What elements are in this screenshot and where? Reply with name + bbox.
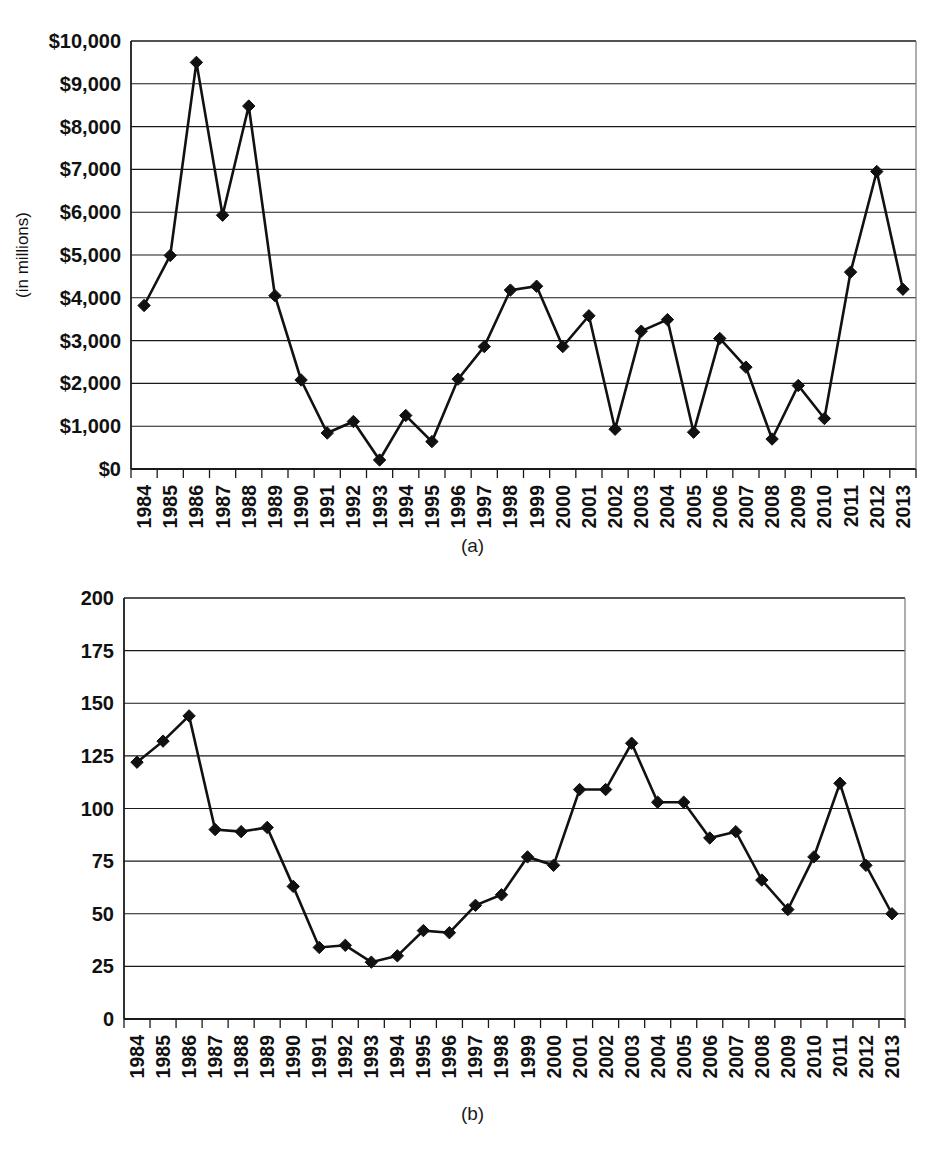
data-point-marker (235, 825, 247, 837)
y-axis-tick-label: $6,000 (60, 201, 121, 223)
x-axis-tick-label: 1987 (212, 485, 234, 528)
y-axis-tick-label: $1,000 (60, 415, 121, 437)
x-axis-tick-label: 1999 (517, 1035, 539, 1079)
x-axis-tick-label: 2000 (543, 1035, 565, 1079)
x-axis-tick-label: 2004 (656, 485, 678, 529)
x-axis-tick-label: 2013 (881, 1035, 903, 1079)
y-axis-tick-label: 150 (81, 692, 114, 714)
x-axis-tick-label: 2005 (683, 485, 705, 529)
data-point-marker (871, 165, 883, 177)
data-point-marker (243, 100, 255, 112)
data-point-marker (834, 777, 846, 789)
data-point-marker (609, 423, 621, 435)
chart-a-container: $0$1,000$2,000$3,000$4,000$5,000$6,000$7… (0, 0, 945, 570)
data-point-marker (573, 783, 585, 795)
x-axis-tick-label: 1984 (133, 485, 155, 529)
data-point-marker (190, 56, 202, 68)
x-axis-tick-label: 2008 (761, 485, 783, 529)
data-point-marker (766, 433, 778, 445)
x-axis-tick-label: 2007 (725, 1035, 747, 1078)
data-point-marker (844, 266, 856, 278)
data-point-marker (295, 374, 307, 386)
x-axis-tick-label: 2013 (892, 485, 914, 529)
x-axis-tick-label: 2009 (787, 485, 809, 529)
data-point-marker (209, 823, 221, 835)
x-axis-tick-label: 2006 (709, 485, 731, 529)
data-point-marker (261, 821, 273, 833)
x-axis-tick-label: 2012 (855, 1035, 877, 1079)
x-axis-tick-label: 1999 (526, 485, 548, 529)
x-axis-tick-label: 2001 (578, 485, 600, 529)
x-axis-tick-label: 2007 (735, 485, 757, 528)
y-axis-tick-label: 125 (81, 745, 114, 767)
data-series-line (144, 62, 903, 460)
y-axis-tick-label: 100 (81, 798, 114, 820)
x-axis-tick-label: 2011 (840, 485, 862, 527)
x-axis-tick-label: 1985 (159, 485, 181, 529)
data-point-marker (164, 249, 176, 261)
x-axis-tick-label: 2005 (673, 1035, 695, 1079)
y-axis-tick-label: $5,000 (60, 244, 121, 266)
y-axis-tick-label: $8,000 (60, 116, 121, 138)
x-axis-tick-label: 1989 (256, 1035, 278, 1079)
figure-page: $0$1,000$2,000$3,000$4,000$5,000$6,000$7… (0, 0, 945, 1152)
data-point-marker (625, 737, 637, 749)
y-axis-tick-label: $10,000 (49, 30, 121, 52)
data-point-marker (313, 941, 325, 953)
x-axis-tick-label: 1984 (126, 1035, 148, 1079)
y-axis-tick-label: 0 (103, 1008, 114, 1030)
data-series-line (137, 716, 892, 962)
x-axis-tick-label: 2011 (829, 1035, 851, 1077)
x-axis-tick-label: 1995 (412, 1035, 434, 1079)
y-axis-tick-label: 25 (92, 955, 114, 977)
x-axis-tick-label: 1986 (178, 1035, 200, 1079)
x-axis-tick-label: 2006 (699, 1035, 721, 1079)
data-point-marker (216, 209, 228, 221)
chart-b-container: 0255075100125150175200198419851986198719… (0, 570, 945, 1152)
x-axis-tick-label: 2010 (813, 485, 835, 529)
y-axis-tick-label: $7,000 (60, 158, 121, 180)
x-axis-tick-label: 2008 (751, 1035, 773, 1079)
data-point-marker (651, 796, 663, 808)
data-point-marker (730, 825, 742, 837)
x-axis-tick-label: 1989 (264, 485, 286, 529)
y-axis-tick-label: $9,000 (60, 73, 121, 95)
chart-b-line-plot: 0255075100125150175200198419851986198719… (0, 570, 945, 1103)
y-axis-tick-label: 50 (92, 903, 114, 925)
y-axis-tick-label: $0 (99, 458, 121, 480)
data-point-marker (530, 280, 542, 292)
x-axis-tick-label: 2012 (866, 485, 888, 529)
x-axis-tick-label: 1990 (290, 485, 312, 529)
x-axis-tick-label: 1993 (369, 485, 391, 529)
x-axis-tick-label: 2003 (630, 485, 652, 529)
data-point-marker (687, 426, 699, 438)
data-point-marker (504, 284, 516, 296)
x-axis-tick-label: 1997 (464, 1035, 486, 1078)
x-axis-tick-label: 1994 (386, 1035, 408, 1079)
x-axis-tick-label: 2010 (803, 1035, 825, 1079)
x-axis-tick-label: 1987 (204, 1035, 226, 1078)
x-axis-tick-label: 1990 (282, 1035, 304, 1079)
y-axis-tick-label: 175 (81, 640, 114, 662)
x-axis-tick-label: 1998 (490, 1035, 512, 1079)
y-axis-tick-label: $4,000 (60, 287, 121, 309)
chart-a-line-plot: $0$1,000$2,000$3,000$4,000$5,000$6,000$7… (0, 0, 945, 535)
data-point-marker (886, 908, 898, 920)
y-axis-tick-label: 200 (81, 587, 114, 609)
x-axis-tick-label: 1994 (395, 485, 417, 529)
x-axis-tick-label: 1988 (238, 485, 260, 529)
x-axis-tick-label: 1988 (230, 1035, 252, 1079)
data-point-marker (321, 427, 333, 439)
x-axis-tick-label: 2004 (647, 1035, 669, 1079)
y-axis-tick-label: $3,000 (60, 330, 121, 352)
x-axis-tick-label: 2009 (777, 1035, 799, 1079)
data-point-marker (287, 880, 299, 892)
x-axis-tick-label: 1986 (185, 485, 207, 529)
x-axis-tick-label: 1993 (360, 1035, 382, 1079)
x-axis-tick-label: 1991 (316, 485, 338, 529)
y-axis-tick-label: 75 (92, 850, 114, 872)
x-axis-tick-label: 1996 (447, 485, 469, 529)
x-axis-tick-label: 2000 (552, 485, 574, 529)
y-axis-tick-label: $2,000 (60, 372, 121, 394)
data-point-marker (897, 283, 909, 295)
